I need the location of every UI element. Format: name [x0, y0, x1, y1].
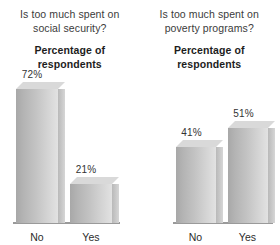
bar-value-label-yes: 51%: [220, 108, 268, 119]
bar-top-face: [176, 140, 223, 147]
bar-no: [176, 147, 216, 223]
bar-side-face: [58, 89, 65, 223]
bar-no: [16, 89, 58, 223]
plot-area: 41% 51% No Yes: [140, 0, 280, 245]
bar-top-face: [16, 82, 65, 89]
bar-side-face: [268, 128, 275, 223]
bar-yes: [228, 128, 268, 223]
plot-area: 72% 21% No Yes: [0, 0, 140, 245]
category-label-no: No: [172, 231, 220, 243]
category-label-yes: Yes: [67, 231, 115, 243]
bar-value-label-yes: 21%: [62, 164, 110, 175]
bar-front-face: [228, 128, 268, 223]
bar-yes: [70, 184, 112, 223]
category-label-yes: Yes: [224, 231, 272, 243]
bar-value-label-no: 72%: [8, 69, 56, 80]
chart-panel-poverty-programs: Is too much spent on poverty programs? P…: [140, 0, 280, 245]
bar-value-label-no: 41%: [168, 127, 216, 138]
bar-top-face: [228, 121, 275, 128]
bar-side-face: [216, 147, 223, 223]
bar-side-face: [112, 184, 119, 223]
category-label-no: No: [13, 231, 61, 243]
bar-front-face: [176, 147, 216, 223]
chart-panel-social-security: Is too much spent on social security? Pe…: [0, 0, 140, 245]
two-panel-bar-chart-figure: Is too much spent on social security? Pe…: [0, 0, 279, 245]
bar-front-face: [16, 89, 58, 223]
bar-top-face: [70, 177, 119, 184]
bar-front-face: [70, 184, 112, 223]
